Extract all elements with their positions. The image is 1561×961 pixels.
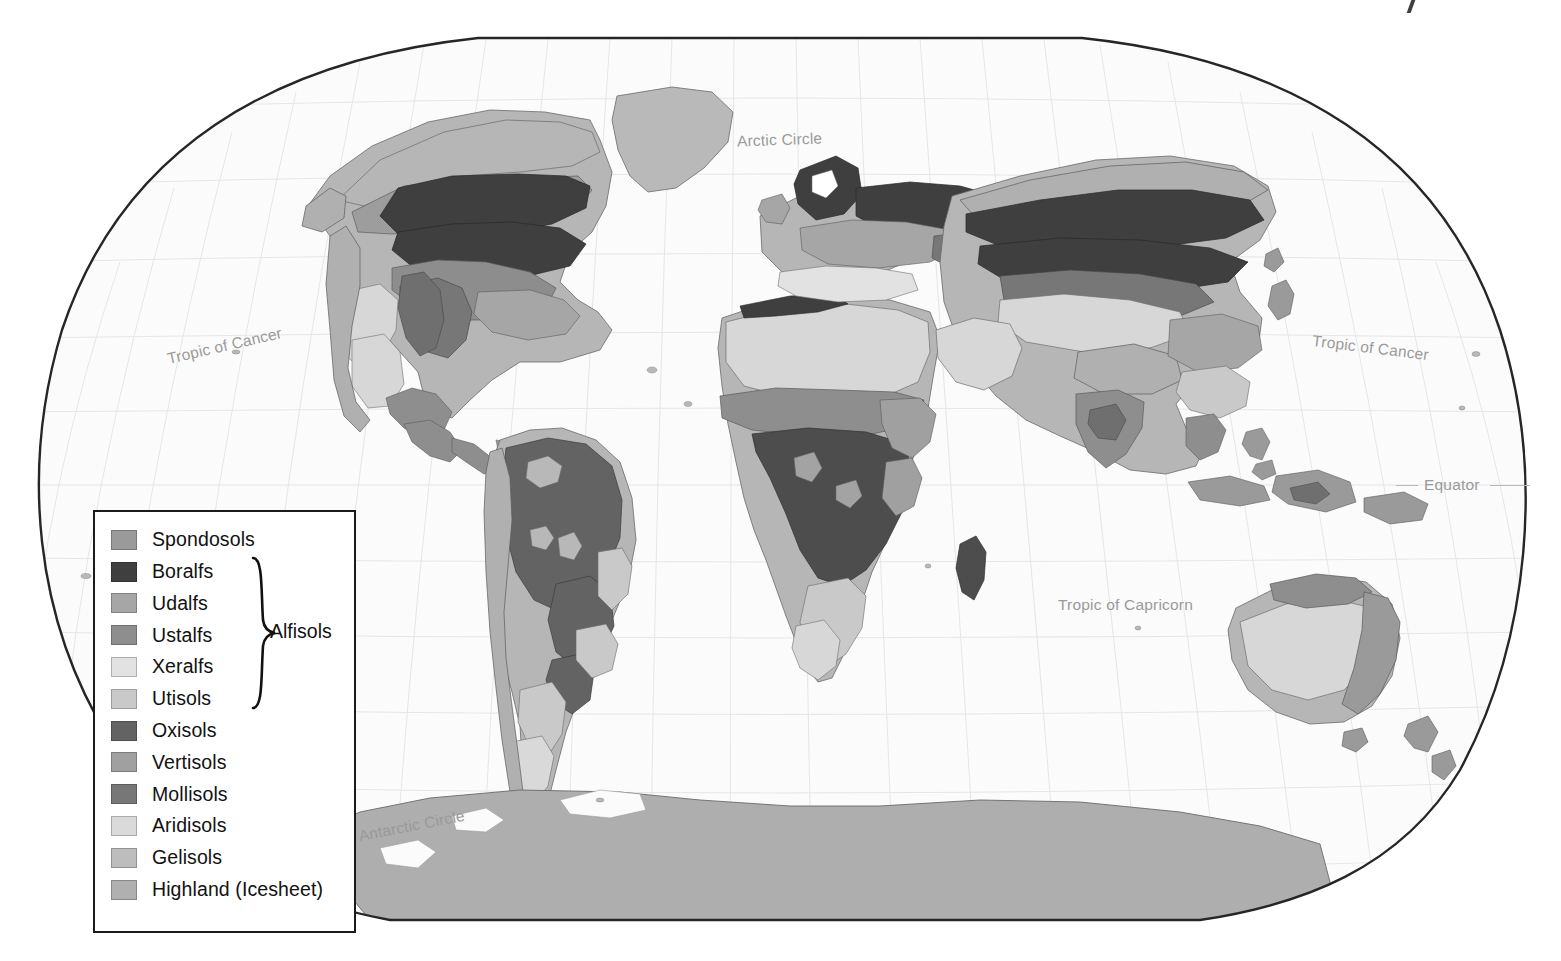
equator-line-left: [1396, 485, 1418, 486]
legend-label: Spondosols: [152, 530, 255, 550]
legend-label: Udalfs: [152, 594, 208, 614]
equator-line-right: [1490, 485, 1530, 486]
legend-label: Vertisols: [152, 753, 227, 773]
legend-swatch: [111, 752, 137, 772]
legend-item: Gelisols: [111, 842, 323, 874]
legend-swatch: [111, 721, 137, 741]
legend-swatch: [111, 530, 137, 550]
legend-swatch: [111, 848, 137, 868]
legend-label: Utisols: [152, 689, 211, 709]
legend-label: Mollisols: [152, 785, 228, 805]
legend-label: Gelisols: [152, 848, 222, 868]
legend-label: Boralfs: [152, 562, 213, 582]
legend-label: Aridisols: [152, 816, 227, 836]
legend-label: Highland (Icesheet): [152, 880, 323, 900]
legend-swatch: [111, 689, 137, 709]
legend-item: Vertisols: [111, 747, 323, 779]
legend-swatch: [111, 816, 137, 836]
legend-item: Aridisols: [111, 810, 323, 842]
legend-item: Highland (Icesheet): [111, 874, 323, 906]
legend-item: Mollisols: [111, 778, 323, 810]
map-legend: SpondosolsBoralfsUdalfsUstalfsXeralfsUti…: [93, 510, 356, 933]
legend-item: Spondosols: [111, 524, 323, 556]
map-figure: Arctic Circle Tropic of Cancer Tropic of…: [0, 0, 1561, 961]
legend-item: Oxisols: [111, 715, 323, 747]
legend-label: Oxisols: [152, 721, 217, 741]
legend-swatch: [111, 593, 137, 613]
legend-swatch: [111, 880, 137, 900]
legend-swatch: [111, 657, 137, 677]
legend-swatch: [111, 625, 137, 645]
legend-swatch: [111, 784, 137, 804]
legend-label: Xeralfs: [152, 657, 213, 677]
alfisols-group-label: Alfisols: [270, 620, 332, 643]
legend-label: Ustalfs: [152, 626, 212, 646]
legend-swatch: [111, 562, 137, 582]
